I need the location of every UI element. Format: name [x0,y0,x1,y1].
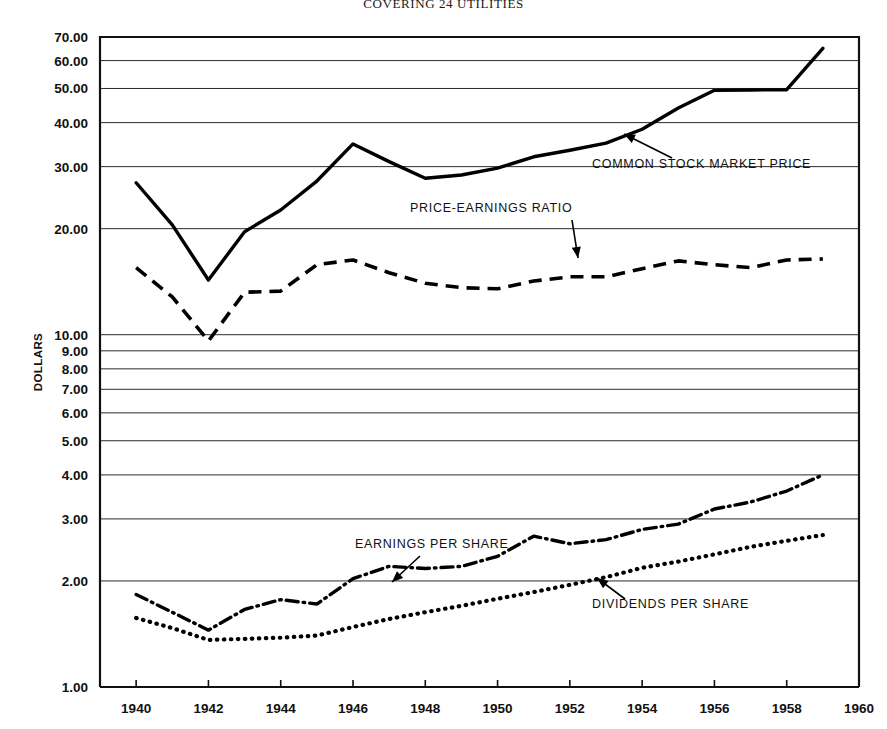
x-axis-tick-label: 1942 [193,701,223,716]
x-axis-tick-label: 1940 [121,701,151,716]
price-annotation-label: COMMON STOCK MARKET PRICE [592,157,811,171]
y-axis-tick-label: 50.00 [54,81,88,96]
x-axis-tick-label: 1958 [772,701,803,716]
y-axis-title: DOLLARS [32,333,44,391]
y-axis-tick-label: 5.00 [62,434,88,449]
y-axis-tick-label: 9.00 [62,344,88,359]
x-axis-tick-label: 1946 [338,701,369,716]
pe-annotation-label: PRICE-EARNINGS RATIO [410,201,572,215]
y-axis-tick-label: 20.00 [54,222,88,237]
y-axis-tick-label: 4.00 [62,468,88,483]
x-axis-tick-label: 1944 [266,701,297,716]
y-axis-tick-label: 6.00 [62,406,88,421]
x-axis-tick-label: 1948 [410,701,441,716]
x-axis-tick-label: 1956 [699,701,730,716]
y-axis-tick-label: 70.00 [54,30,88,45]
pe-annotation-arrow-icon [572,246,581,258]
dps-annotation-arrow-icon [597,578,609,588]
chart-page: COVERING 24 UTILITIES 70.0060.0050.0040.… [0,0,887,729]
y-axis-tick-label: 30.00 [54,160,88,175]
x-axis-tick-label: 1950 [483,701,513,716]
y-axis-tick-label: 1.00 [62,680,88,695]
plot-frame [100,37,859,687]
x-axis-tick-label: 1954 [627,701,658,716]
y-axis-tick-label: 2.00 [62,574,88,589]
series-price-earnings-ratio [136,259,823,341]
utilities-chart: 70.0060.0050.0040.0030.0020.0010.009.008… [0,0,887,729]
dps-annotation-label: DIVIDENDS PER SHARE [592,597,749,611]
y-axis-tick-label: 3.00 [62,512,88,527]
y-axis-tick-label: 10.00 [54,328,88,343]
y-axis-tick-label: 8.00 [62,362,88,377]
y-axis-tick-label: 7.00 [62,382,88,397]
y-axis-tick-label: 60.00 [54,54,88,69]
x-axis-tick-label: 1960 [844,701,874,716]
x-axis-tick-label: 1952 [555,701,585,716]
eps-annotation-label: EARNINGS PER SHARE [355,537,509,551]
y-axis-tick-label: 40.00 [54,116,88,131]
